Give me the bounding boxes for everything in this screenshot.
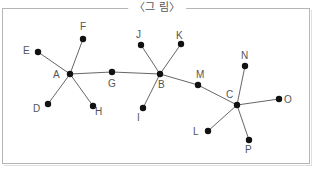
node-label-B: B (158, 79, 165, 90)
node-J (138, 42, 144, 48)
node-label-D: D (33, 103, 40, 114)
node-P (246, 137, 252, 143)
edge-B-J (141, 45, 160, 74)
node-label-L: L (193, 126, 199, 137)
node-E (35, 49, 41, 55)
edge-A-H (70, 74, 93, 106)
node-label-H: H (95, 106, 102, 117)
node-label-P: P (245, 144, 252, 155)
node-C (234, 102, 240, 108)
node-label-M: M (196, 69, 204, 80)
edge-C-O (237, 99, 279, 105)
edge-A-G (70, 72, 112, 74)
node-L (205, 128, 211, 134)
node-G (109, 69, 115, 75)
node-O (276, 96, 282, 102)
node-N (242, 63, 248, 69)
node-label-O: O (284, 94, 292, 105)
graph-labels: ABCDEFGHIJKLMNOP (23, 21, 292, 155)
node-K (178, 41, 184, 47)
node-B (157, 71, 163, 77)
node-label-F: F (80, 21, 86, 32)
network-graph: ABCDEFGHIJKLMNOP (0, 0, 314, 173)
edge-B-K (160, 44, 181, 74)
node-label-A: A (53, 69, 60, 80)
node-F (80, 36, 86, 42)
node-label-J: J (136, 29, 141, 40)
node-label-I: I (137, 112, 140, 123)
edge-C-L (208, 105, 237, 131)
node-I (140, 105, 146, 111)
node-A (67, 71, 73, 77)
node-label-C: C (226, 89, 233, 100)
edge-C-N (237, 66, 245, 105)
node-label-K: K (176, 30, 183, 41)
node-M (195, 82, 201, 88)
edge-A-F (70, 39, 83, 74)
node-label-E: E (23, 45, 30, 56)
edge-G-B (112, 72, 160, 74)
node-D (45, 101, 51, 107)
edge-C-P (237, 105, 249, 140)
node-label-G: G (108, 78, 116, 89)
edge-B-M (160, 74, 198, 85)
node-label-N: N (241, 50, 248, 61)
